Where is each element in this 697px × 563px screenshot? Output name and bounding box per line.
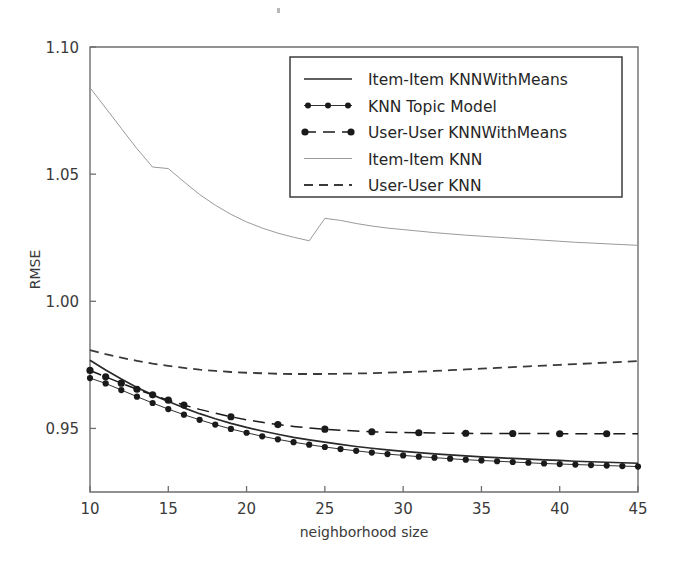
series-user-user-knnwithmeans [86, 367, 638, 438]
data-point [416, 454, 422, 460]
y-tick-label: 0.95 [46, 420, 79, 438]
data-point [572, 461, 578, 467]
legend-label: Item-Item KNNWithMeans [368, 71, 568, 89]
data-point [384, 451, 390, 457]
data-point [181, 412, 187, 418]
data-point [603, 430, 610, 437]
data-point [149, 391, 156, 398]
data-point [133, 386, 140, 393]
data-point [525, 460, 531, 466]
data-point [227, 413, 234, 420]
data-point [462, 430, 469, 437]
series-knn-topic-model [87, 375, 641, 470]
data-point [290, 439, 296, 445]
x-tick-label: 25 [315, 500, 334, 518]
data-point [87, 375, 93, 381]
data-point [415, 429, 422, 436]
data-point [197, 417, 203, 423]
data-point [134, 394, 140, 400]
data-point [180, 401, 187, 408]
x-tick-label: 40 [550, 500, 569, 518]
x-tick-labels: 1015202530354045 [80, 500, 647, 518]
data-point [588, 462, 594, 468]
x-tick-label: 35 [472, 500, 491, 518]
y-axis-title: RMSE [27, 250, 43, 290]
scan-artifact [277, 8, 280, 13]
series-user-user-knn [90, 350, 638, 374]
legend-marker [301, 128, 308, 135]
x-tick-label: 10 [80, 500, 99, 518]
legend-label: User-User KNNWithMeans [368, 124, 567, 142]
series-line [90, 370, 638, 433]
series-line [90, 360, 638, 463]
data-point [243, 430, 249, 436]
data-point [165, 406, 171, 412]
y-tick-label: 1.05 [46, 166, 79, 184]
legend-marker [345, 103, 351, 109]
x-axis-title: neighborhood size [300, 524, 429, 540]
y-tick-labels: 0.951.001.051.10 [46, 39, 79, 438]
data-point [275, 436, 281, 442]
data-point [604, 462, 610, 468]
data-point [557, 461, 563, 467]
x-tick-label: 45 [628, 500, 647, 518]
legend-marker [347, 128, 354, 135]
series-line [90, 350, 638, 374]
x-tick-label: 15 [159, 500, 178, 518]
data-point [274, 421, 281, 428]
y-tick-label: 1.10 [46, 39, 79, 57]
legend-label: Item-Item KNN [368, 151, 482, 169]
data-point [165, 397, 172, 404]
data-point [635, 463, 641, 469]
data-point [322, 444, 328, 450]
series-item-item-knnwithmeans [90, 360, 638, 463]
data-point [259, 433, 265, 439]
data-point [368, 428, 375, 435]
legend-marker [325, 103, 331, 109]
data-point [478, 457, 484, 463]
rmse-vs-neighborhood-size-chart: 0.951.001.051.10 1015202530354045 neighb… [0, 0, 697, 563]
data-point [321, 426, 328, 433]
data-point [306, 442, 312, 448]
chart-legend: Item-Item KNNWithMeansKNN Topic ModelUse… [290, 57, 622, 197]
data-point [556, 430, 563, 437]
x-tick-label: 30 [394, 500, 413, 518]
legend-label: User-User KNN [368, 177, 482, 195]
data-point [353, 448, 359, 454]
data-point [494, 458, 500, 464]
y-tick-label: 1.00 [46, 293, 79, 311]
data-point [150, 400, 156, 406]
data-point [337, 446, 343, 452]
data-point [118, 380, 125, 387]
data-point [509, 430, 516, 437]
x-tick-label: 20 [237, 500, 256, 518]
data-point [369, 449, 375, 455]
data-point [463, 457, 469, 463]
legend-label: KNN Topic Model [368, 98, 497, 116]
series-line [90, 378, 638, 466]
chart-figure: 0.951.001.051.10 1015202530354045 neighb… [0, 0, 697, 563]
data-point [541, 460, 547, 466]
data-point [103, 380, 109, 386]
legend-marker [305, 103, 311, 109]
data-point [447, 456, 453, 462]
data-point [400, 452, 406, 458]
data-point [118, 387, 124, 393]
data-point [86, 367, 93, 374]
data-point [431, 455, 437, 461]
data-point [212, 422, 218, 428]
data-point [228, 426, 234, 432]
data-point [510, 459, 516, 465]
data-point [102, 373, 109, 380]
data-point [619, 463, 625, 469]
